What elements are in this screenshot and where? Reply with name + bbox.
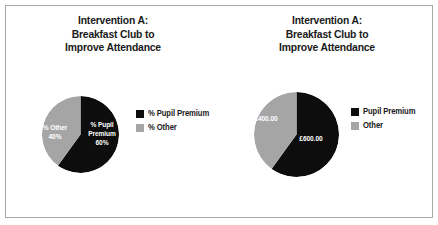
- slice-label-line: 40%: [37, 132, 74, 141]
- legend-item-label: Other: [363, 121, 383, 130]
- legend-item-label: % Other: [148, 123, 177, 132]
- chart-panel-left: Intervention A: Breakfast Club to Improv…: [6, 6, 220, 217]
- figure-frame: Intervention A: Breakfast Club to Improv…: [5, 5, 433, 218]
- legend-swatch-icon: [136, 124, 144, 132]
- title-line-1: Intervention A:: [17, 14, 210, 28]
- pie-right-label-other: £400.00: [247, 114, 286, 123]
- slice-label-line: Premium: [83, 129, 122, 138]
- screenshot-root: Intervention A: Breakfast Club to Improv…: [0, 0, 438, 225]
- legend-left: % Pupil Premium % Other: [136, 109, 216, 132]
- legend-item-label: Pupil Premium: [363, 107, 415, 116]
- legend-item-pupil-premium[interactable]: % Pupil Premium: [136, 109, 216, 118]
- title-line-3: Improve Attendance: [231, 41, 424, 55]
- legend-right: Pupil Premium Other: [351, 107, 421, 130]
- pie-right-label-pupil-premium: £600.00: [291, 134, 331, 143]
- title-line-1: Intervention A:: [231, 14, 424, 28]
- chart-title-left: Intervention A: Breakfast Club to Improv…: [17, 14, 210, 55]
- title-line-2: Breakfast Club to: [231, 28, 424, 42]
- legend-swatch-icon: [351, 122, 359, 130]
- chart-title-right: Intervention A: Breakfast Club to Improv…: [231, 14, 424, 55]
- slice-label-line: 60%: [83, 138, 122, 147]
- pie-left-label-pupil-premium: % Pupil Premium 60%: [83, 120, 122, 147]
- slice-label-line: £600.00: [291, 134, 331, 143]
- legend-swatch-icon: [136, 110, 144, 118]
- pie-left-label-other: % Other 40%: [37, 123, 74, 141]
- title-line-3: Improve Attendance: [17, 41, 210, 55]
- legend-swatch-icon: [351, 108, 359, 116]
- chart-panel-right: Intervention A: Breakfast Club to Improv…: [220, 6, 434, 217]
- slice-label-line: % Pupil: [83, 120, 122, 129]
- legend-item-other[interactable]: Other: [351, 121, 421, 130]
- legend-item-label: % Pupil Premium: [148, 109, 209, 118]
- legend-item-other[interactable]: % Other: [136, 123, 216, 132]
- slice-label-line: £400.00: [247, 114, 286, 123]
- slice-label-line: % Other: [37, 123, 74, 132]
- legend-item-pupil-premium[interactable]: Pupil Premium: [351, 107, 421, 116]
- title-line-2: Breakfast Club to: [17, 28, 210, 42]
